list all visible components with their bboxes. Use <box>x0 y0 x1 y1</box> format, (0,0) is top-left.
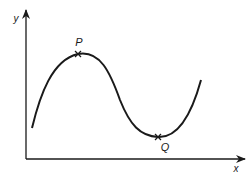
point-p-label: P <box>75 36 83 48</box>
curve <box>32 54 201 138</box>
point-q-label: Q <box>161 141 170 153</box>
x-axis-label: x <box>233 163 240 174</box>
y-axis-label: y <box>13 13 20 24</box>
graph-diagram: P Q y x <box>0 0 252 180</box>
